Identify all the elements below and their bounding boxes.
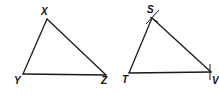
side-st bbox=[129, 18, 152, 73]
vertex-label-v: V bbox=[212, 75, 219, 86]
triangle-stv: S T V bbox=[122, 4, 219, 86]
side-sv bbox=[152, 18, 211, 72]
diagram-canvas: X Y Z S T V bbox=[0, 0, 219, 95]
vertex-label-s: S bbox=[147, 4, 154, 15]
triangle-xyz: X Y Z bbox=[14, 6, 108, 86]
vertex-label-t: T bbox=[122, 74, 129, 85]
side-tv bbox=[129, 72, 211, 73]
side-yz bbox=[23, 74, 106, 75]
side-xy bbox=[23, 19, 47, 74]
vertex-label-y: Y bbox=[14, 75, 22, 86]
vertex-label-x: X bbox=[40, 6, 49, 17]
side-xz bbox=[47, 19, 106, 75]
vertex-label-z: Z bbox=[100, 75, 108, 86]
